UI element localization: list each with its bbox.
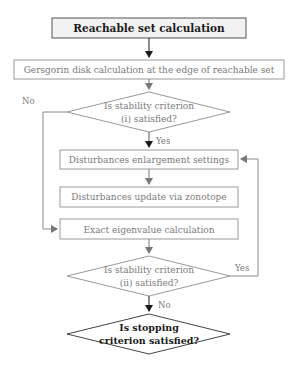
- node-enlargement-label: Disturbances enlargement settings: [69, 155, 230, 165]
- node-update: Disturbances update via zonotope: [60, 187, 238, 207]
- decision-criterion-i-line2: (i) satisfied?: [121, 114, 177, 124]
- edge-label-crit1-no: No: [22, 96, 35, 106]
- arrow-crit1-no-to-eigen: [43, 112, 67, 229]
- edge-label-crit2-yes: Yes: [234, 263, 249, 273]
- node-reachable-set-label: Reachable set calculation: [73, 22, 225, 34]
- node-reachable-set: Reachable set calculation: [52, 18, 246, 38]
- edge-label-crit2-no: No: [158, 300, 171, 310]
- flowchart: Reachable set calculation Gersgorin disk…: [0, 0, 296, 371]
- decision-stopping-line1: Is stopping: [119, 322, 179, 333]
- decision-criterion-ii-line2: (ii) satisfied?: [120, 278, 179, 288]
- decision-stopping-criterion: Is stopping criterion satisfied?: [67, 314, 230, 354]
- decision-criterion-ii: Is stability criterion (ii) satisfied?: [67, 256, 230, 296]
- edge-label-crit1-yes: Yes: [155, 136, 170, 146]
- decision-criterion-i-line1: Is stability criterion: [104, 101, 194, 111]
- node-enlargement: Disturbances enlargement settings: [60, 150, 238, 169]
- node-gersgorin-label: Gersgorin disk calculation at the edge o…: [24, 65, 275, 75]
- node-eigenvalue: Exact eigenvalue calculation: [60, 219, 238, 239]
- decision-criterion-ii-line1: Is stability criterion: [104, 265, 194, 275]
- decision-criterion-i: Is stability criterion (i) satisfied?: [67, 92, 230, 132]
- node-gersgorin: Gersgorin disk calculation at the edge o…: [14, 60, 284, 79]
- decision-stopping-line2: criterion satisfied?: [99, 335, 199, 346]
- node-update-label: Disturbances update via zonotope: [71, 192, 226, 202]
- arrow-crit2-yes-to-enlarge: [230, 159, 258, 276]
- node-eigenvalue-label: Exact eigenvalue calculation: [83, 225, 214, 235]
